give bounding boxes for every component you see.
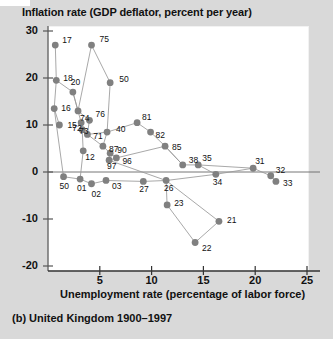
data-point-label-50b: 50 bbox=[60, 181, 69, 191]
data-point-label-81: 81 bbox=[142, 112, 151, 122]
data-point-label-21: 21 bbox=[227, 215, 236, 225]
y-tick-30: 30 bbox=[8, 24, 38, 36]
data-point-label-16: 16 bbox=[61, 103, 70, 113]
data-point-label-82: 82 bbox=[156, 130, 165, 140]
chart-title: Inflation rate (GDP deflator, percent pe… bbox=[22, 6, 252, 18]
x-tick-10: 10 bbox=[140, 274, 164, 286]
data-point-label-27: 27 bbox=[139, 184, 148, 194]
data-point-label-03: 03 bbox=[112, 181, 121, 191]
data-point-label-85: 85 bbox=[172, 142, 181, 152]
data-point-label-26: 26 bbox=[164, 183, 173, 193]
data-point-label-33: 33 bbox=[283, 178, 292, 188]
x-tick-25: 25 bbox=[295, 274, 319, 286]
data-point-label-12: 12 bbox=[85, 152, 94, 162]
data-point-label-31: 31 bbox=[255, 156, 264, 166]
data-point-label-01: 01 bbox=[77, 183, 86, 193]
data-point-label-90: 90 bbox=[117, 145, 126, 155]
data-point-label-71: 71 bbox=[93, 131, 102, 141]
data-point-label-34: 34 bbox=[213, 177, 222, 187]
figure-panel: Inflation rate (GDP deflator, percent pe… bbox=[0, 0, 333, 339]
panel-caption: (b) United Kingdom 1900–1997 bbox=[12, 312, 172, 324]
data-point-label-32: 32 bbox=[276, 165, 285, 175]
data-point-label-76: 76 bbox=[95, 109, 104, 119]
data-point-label-02: 02 bbox=[92, 189, 101, 199]
data-point-label-40: 40 bbox=[116, 124, 125, 134]
data-point-label-96: 96 bbox=[122, 156, 131, 166]
data-point-label-74: 74 bbox=[80, 113, 89, 123]
y-tick--20: -20 bbox=[8, 259, 38, 271]
x-tick-15: 15 bbox=[191, 274, 215, 286]
data-point-label-35: 35 bbox=[202, 153, 211, 163]
data-point-label-72: 72 bbox=[72, 123, 81, 133]
x-tick-5: 5 bbox=[88, 274, 112, 286]
x-axis-title: Unemployment rate (percentage of labor f… bbox=[60, 288, 305, 300]
y-tick-20: 20 bbox=[8, 71, 38, 83]
data-point-label-20: 20 bbox=[71, 77, 80, 87]
data-point-label-23: 23 bbox=[174, 198, 183, 208]
y-tick-10: 10 bbox=[8, 118, 38, 130]
x-tick-20: 20 bbox=[243, 274, 267, 286]
data-point-label-75: 75 bbox=[100, 34, 109, 44]
y-tick--10: -10 bbox=[8, 212, 38, 224]
data-point-label-22: 22 bbox=[202, 243, 211, 253]
data-point-label-38: 38 bbox=[189, 155, 198, 165]
data-point-label-50: 50 bbox=[119, 74, 128, 84]
y-tick-0: 0 bbox=[8, 165, 38, 177]
data-point-label-97: 97 bbox=[107, 161, 116, 171]
data-point-label-17: 17 bbox=[62, 35, 71, 45]
